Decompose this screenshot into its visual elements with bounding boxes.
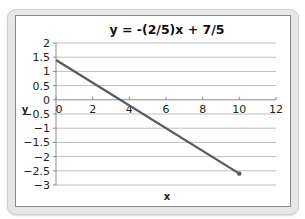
x-tick-label: 10 — [232, 103, 246, 116]
x-tick-label: 0 — [56, 103, 63, 116]
x-axis-label: x — [164, 191, 171, 202]
y-tick-label: −3 — [34, 179, 50, 192]
chart-title: y = -(2/5)x + 7/5 — [109, 22, 224, 37]
y-tick-label: −1 — [34, 122, 50, 135]
data-series — [56, 60, 242, 176]
y-tick-label: 1 — [43, 65, 50, 78]
y-tick-label: −2.5 — [23, 165, 50, 178]
x-axis: 024681012 — [56, 97, 284, 116]
x-tick-label: 6 — [163, 103, 170, 116]
y-tick-label: 2 — [43, 37, 50, 50]
x-tick-label: 12 — [269, 103, 283, 116]
y-tick-label: 1.5 — [33, 51, 51, 64]
chart-svg: y = -(2/5)x + 7/5 21.510.50−0.5−1−1.5−2−… — [0, 0, 305, 219]
y-tick-label: 0.5 — [33, 80, 51, 93]
y-tick-label: −1.5 — [23, 136, 50, 149]
data-point-marker — [237, 171, 241, 175]
y-tick-label: 0 — [43, 94, 50, 107]
x-tick-label: 8 — [199, 103, 206, 116]
x-tick-label: 2 — [89, 103, 96, 116]
y-axis-label: y — [22, 104, 29, 115]
y-tick-label: −2 — [34, 151, 50, 164]
